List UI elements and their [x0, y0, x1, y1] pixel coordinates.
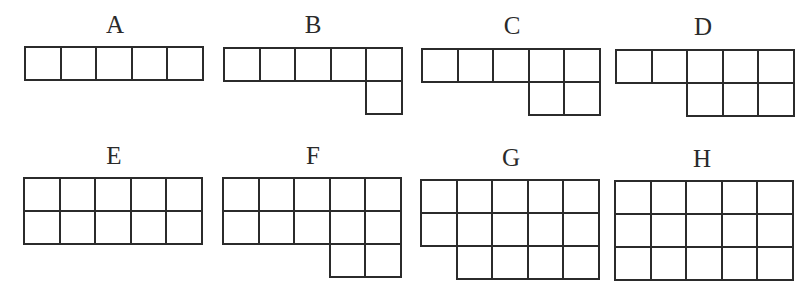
grid-cell — [329, 243, 367, 278]
grid-cell — [614, 246, 652, 281]
grid-cell — [293, 177, 331, 212]
grid-cell — [166, 46, 204, 81]
grid-cell — [330, 47, 368, 82]
grid-cell — [685, 213, 723, 248]
grid-cell — [365, 80, 403, 115]
grid-cell — [756, 213, 794, 248]
grid-cell — [95, 46, 133, 81]
grid-cell — [131, 46, 169, 81]
grid-cell — [222, 210, 260, 245]
grid-cell — [685, 246, 723, 281]
grid-cell — [420, 179, 458, 214]
grid-cell — [650, 213, 688, 248]
grid-cell — [757, 49, 795, 84]
grid-cell — [23, 177, 61, 212]
grid-cell — [563, 81, 601, 116]
figure-label-e: E — [94, 143, 134, 168]
grid-cell — [94, 210, 132, 245]
grid-cell — [222, 177, 260, 212]
grid-cell — [686, 82, 724, 117]
figure-label-f: F — [293, 143, 333, 168]
grid-cell — [293, 210, 331, 245]
grid-cell — [527, 245, 565, 280]
grid-cell — [686, 49, 724, 84]
grid-cell — [94, 177, 132, 212]
grid-cell — [258, 210, 296, 245]
grid-cell — [527, 212, 565, 247]
grid-cell — [456, 245, 494, 280]
grid-cell — [130, 210, 168, 245]
grid-cell — [59, 177, 97, 212]
grid-cell — [421, 48, 459, 83]
grid-cell — [491, 179, 529, 214]
grid-cell — [223, 47, 261, 82]
grid-cell — [60, 46, 98, 81]
grid-cell — [562, 179, 600, 214]
grid-cell — [562, 245, 600, 280]
grid-cell — [528, 81, 566, 116]
grid-cell — [650, 246, 688, 281]
figure-label-a: A — [95, 12, 135, 37]
grid-cell — [651, 49, 689, 84]
grid-cell — [721, 180, 759, 215]
grid-cell — [294, 47, 332, 82]
grid-cell — [364, 243, 402, 278]
grid-cell — [615, 49, 653, 84]
figure-label-h: H — [682, 146, 722, 171]
grid-cell — [492, 48, 530, 83]
grid-cell — [329, 177, 367, 212]
grid-cell — [721, 213, 759, 248]
grid-cell — [757, 82, 795, 117]
grid-cell — [563, 48, 601, 83]
grid-cell — [258, 177, 296, 212]
grid-cell — [165, 210, 203, 245]
grid-cell — [165, 177, 203, 212]
grid-cell — [457, 48, 495, 83]
figure-label-b: B — [293, 12, 333, 37]
grid-cell — [650, 180, 688, 215]
grid-cell — [756, 180, 794, 215]
grid-cell — [420, 212, 458, 247]
grid-cell — [130, 177, 168, 212]
grid-cell — [756, 246, 794, 281]
grid-cell — [259, 47, 297, 82]
grid-cell — [614, 180, 652, 215]
grid-cell — [722, 49, 760, 84]
grid-cell — [614, 213, 652, 248]
grid-cell — [562, 212, 600, 247]
grid-cell — [365, 47, 403, 82]
grid-cell — [23, 210, 61, 245]
grid-cell — [491, 212, 529, 247]
grid-cell — [527, 179, 565, 214]
grid-cell — [364, 210, 402, 245]
figure-label-g: G — [491, 145, 531, 170]
grid-cell — [685, 180, 723, 215]
grid-cell — [722, 82, 760, 117]
grid-cell — [364, 177, 402, 212]
grid-cell — [721, 246, 759, 281]
figure-label-d: D — [683, 14, 723, 39]
figure-label-c: C — [492, 13, 532, 38]
grid-cell — [456, 179, 494, 214]
grid-cell — [491, 245, 529, 280]
grid-cell — [528, 48, 566, 83]
grid-cell — [24, 46, 62, 81]
grid-cell — [329, 210, 367, 245]
grid-cell — [456, 212, 494, 247]
grid-cell — [59, 210, 97, 245]
